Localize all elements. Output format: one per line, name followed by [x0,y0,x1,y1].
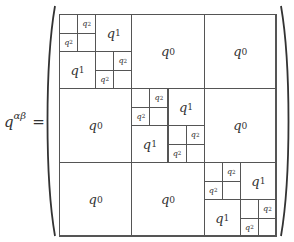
diagonal-cell [131,88,150,108]
diagonal-cell [95,51,114,71]
block-q1: q1 [240,162,277,200]
block-q2: q2 [204,181,223,201]
block-q2: q2 [77,14,96,34]
symbol-superscript: αβ [14,110,27,121]
left-parenthesis [43,4,57,238]
block-q0: q0 [204,14,277,89]
diagonal-cell [240,199,259,219]
block-q1: q1 [168,88,205,126]
diagonal-cell [149,107,168,127]
block-q1: q1 [59,51,96,89]
block-q0: q0 [204,88,277,163]
symbol-base: q [4,113,14,131]
matrix-symbol: qαβ= [4,112,45,131]
diagonal-cell [113,70,132,90]
diagonal-cell [204,162,223,182]
diagonal-cell [186,144,205,164]
diagonal-cell [59,14,78,34]
block-q2: q2 [168,144,187,164]
diagonal-cell [222,181,241,201]
block-q2: q2 [222,162,241,182]
parisi-matrix: q2q2q1q1q2q2q0q0q0q2q2q1q1q2q2q0q0q0q2q2… [59,14,276,236]
right-parenthesis [279,4,293,238]
block-q1: q1 [95,14,132,52]
diagonal-cell [168,125,187,145]
block-q2: q2 [240,218,259,238]
block-q0: q0 [131,162,204,237]
block-q2: q2 [59,33,78,53]
block-q0: q0 [59,88,132,163]
block-q0: q0 [59,162,132,237]
diagonal-cell [77,33,96,53]
block-q2: q2 [186,125,205,145]
block-q2: q2 [113,51,132,71]
block-q2: q2 [258,199,277,219]
block-q2: q2 [149,88,168,108]
diagonal-cell [258,218,277,238]
block-q1: q1 [204,199,241,237]
block-q0: q0 [131,14,204,89]
block-q1: q1 [131,125,168,163]
block-q2: q2 [131,107,150,127]
block-q2: q2 [95,70,114,90]
